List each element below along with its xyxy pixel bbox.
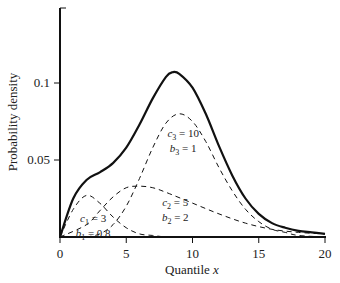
annotation-1: c2 = 5 — [162, 196, 189, 211]
y-ticks: 0.050.1 — [27, 75, 60, 167]
chart: 05101520 0.050.1 Quantile x Probability … — [0, 0, 340, 283]
x-ticks: 05101520 — [57, 237, 332, 261]
annotation-2: c1 = 3 — [80, 212, 107, 227]
annotation-1: b2 = 2 — [162, 211, 189, 226]
x-tick-label: 10 — [186, 246, 199, 261]
annotation-0: c3 = 10 — [167, 127, 199, 142]
y-axis-label: Probability density — [5, 72, 20, 171]
annotation-2: b1 = 0.8 — [76, 227, 111, 242]
annotations: c3 = 10b3 = 1c2 = 5b2 = 2c1 = 3b1 = 0.8 — [76, 127, 200, 242]
x-tick-label: 0 — [57, 246, 64, 261]
annotation-0: b3 = 1 — [170, 142, 197, 157]
y-tick-label: 0.05 — [27, 152, 50, 167]
series-3-line — [87, 114, 326, 237]
x-tick-label: 15 — [252, 246, 265, 261]
x-tick-label: 5 — [123, 246, 130, 261]
y-tick-label: 0.1 — [34, 75, 50, 90]
x-tick-label: 20 — [319, 246, 332, 261]
x-axis-label: Quantile x — [165, 262, 219, 277]
